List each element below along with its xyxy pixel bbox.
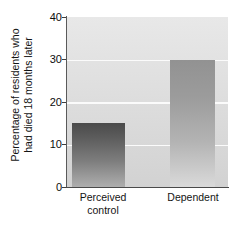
y-tick-label-40: 40 [40, 11, 62, 23]
bar-perceived-control [72, 123, 125, 187]
x-category-label-perceived-control: Perceived control [62, 191, 144, 216]
y-tick-label-0: 0 [40, 181, 62, 193]
y-axis-line [66, 16, 67, 188]
y-tick-label-30: 30 [40, 53, 62, 65]
x-category-label-line-1: Perceived [62, 191, 144, 204]
y-axis-title-text: Percentage of residents who had died 18 … [9, 28, 35, 161]
bar-dependent [170, 60, 215, 188]
bar-chart: Percentage of residents who had died 18 … [0, 0, 242, 225]
x-category-label-line-1: Dependent [152, 191, 234, 204]
y-axis-title-line-2: had died 18 months later [22, 28, 35, 161]
x-category-label-line-2: control [62, 204, 144, 217]
y-axis-title-line-1: Percentage of residents who [9, 28, 22, 161]
x-axis-line [66, 187, 229, 188]
y-tick-label-20: 20 [40, 96, 62, 108]
y-axis-title: Percentage of residents who had died 18 … [0, 0, 44, 190]
plot-area [67, 17, 228, 187]
y-tick-label-10: 10 [40, 138, 62, 150]
x-category-label-dependent: Dependent [152, 191, 234, 204]
